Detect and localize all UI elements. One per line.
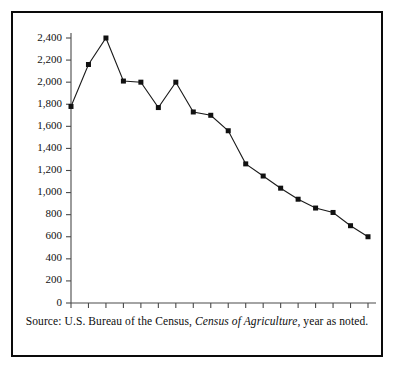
x-tick-label: 1964 — [270, 310, 293, 313]
y-tick-label: 600 — [46, 229, 63, 241]
caption-publication-title: Census of Agriculture — [195, 315, 297, 327]
data-point-marker — [243, 161, 248, 166]
data-point-marker — [331, 210, 336, 215]
y-tick-label: 2,000 — [37, 75, 62, 87]
data-point-marker — [296, 197, 301, 202]
y-axis: 02004006008001,0001,2001,4001,6001,8002,… — [37, 31, 71, 308]
data-point-markers — [69, 36, 371, 240]
y-tick-label: 1,800 — [37, 97, 62, 109]
caption-prefix: Source: U.S. Bureau of the Census, — [26, 315, 192, 327]
x-tick-label: 1925 — [130, 310, 153, 313]
data-point-marker — [313, 206, 318, 211]
series-polyline — [71, 38, 368, 237]
data-point-marker — [86, 62, 91, 67]
y-tick-label: 400 — [46, 251, 63, 263]
x-tick-label: 1910 — [95, 310, 118, 313]
x-tick-label: 1945 — [200, 310, 223, 313]
data-point-marker — [191, 109, 196, 114]
y-tick-label: 800 — [46, 207, 63, 219]
y-tick-label: 1,400 — [37, 141, 62, 153]
data-point-marker — [208, 113, 213, 118]
data-point-marker — [69, 104, 74, 109]
data-point-marker — [103, 36, 108, 41]
y-tick-label: 200 — [46, 273, 63, 285]
data-point-marker — [366, 234, 371, 239]
x-tick-label: 1935 — [165, 310, 188, 313]
data-point-marker — [173, 80, 178, 85]
x-tick-label: 1954 — [235, 310, 257, 313]
x-tick-label: 1982 — [340, 310, 362, 313]
farm-count-series — [71, 38, 368, 237]
line-chart: 02004006008001,0001,2001,4001,6001,8002,… — [13, 13, 383, 313]
y-tick-label: 1,600 — [37, 119, 62, 131]
chart-plot-area: 02004006008001,0001,2001,4001,6001,8002,… — [13, 13, 383, 313]
data-point-marker — [138, 80, 143, 85]
data-point-marker — [121, 79, 126, 84]
data-point-marker — [261, 174, 266, 179]
y-tick-label: 0 — [57, 296, 63, 308]
caption-suffix: , year as noted. — [297, 315, 368, 327]
x-tick-label: 1890 — [60, 310, 83, 313]
data-point-marker — [278, 186, 283, 191]
data-point-marker — [156, 105, 161, 110]
source-caption: Source: U.S. Bureau of the Census, Censu… — [13, 315, 381, 327]
y-tick-label: 2,400 — [37, 31, 62, 43]
x-axis: 189019101925193519451954196419741982 — [60, 303, 376, 313]
x-tick-label: 1974 — [305, 310, 328, 313]
y-tick-label: 1,000 — [37, 185, 62, 197]
y-tick-label: 1,200 — [37, 163, 62, 175]
y-tick-label: 2,200 — [37, 53, 62, 65]
figure-frame: 02004006008001,0001,2001,4001,6001,8002,… — [11, 11, 383, 357]
data-point-marker — [226, 128, 231, 133]
data-point-marker — [348, 223, 353, 228]
